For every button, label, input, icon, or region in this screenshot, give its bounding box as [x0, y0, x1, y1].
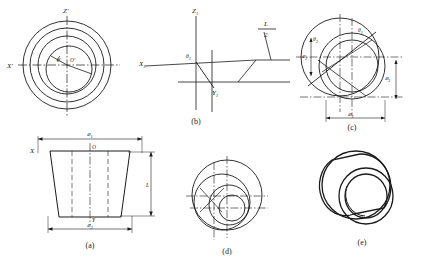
label-y1: Y1 — [212, 89, 218, 98]
label-dia2-a: ⌀2 — [87, 222, 93, 230]
panel-e: (e) — [319, 151, 393, 247]
dim-c-bottom-arrow-left — [326, 116, 330, 119]
label-L-numerator: L — [263, 20, 268, 28]
label-L-a: L — [145, 182, 149, 188]
label-theta2-c: θ2 — [313, 36, 319, 44]
dim-a-top-arrow-left — [38, 137, 43, 141]
panel-top-left: Z' X' θ' O' — [6, 7, 120, 116]
dim-a-right-arrow-top — [149, 152, 153, 157]
pictorial-bore-shadow — [346, 186, 365, 216]
label-x-prime: X' — [6, 62, 13, 70]
dim-a-top-arrow-right — [138, 137, 143, 141]
label-Y-a: Y — [92, 217, 96, 223]
dim-c-left-arrow-bottom — [309, 72, 312, 76]
label-theta1-b: θ1 — [186, 53, 191, 61]
dim-a-bottom-arrow-right — [128, 227, 133, 231]
label-dia3-c: ⌀3 — [385, 75, 391, 83]
label-z1: Z1 — [192, 7, 198, 16]
construction-left-line — [238, 60, 256, 82]
dim-c-bottom-arrow-right — [381, 116, 385, 119]
label-2-denominator: 2 — [264, 31, 268, 39]
panel-d: (d) — [186, 156, 268, 256]
label-dia1-c: ⌀1 — [348, 111, 353, 119]
caption-b: (b) — [191, 117, 201, 126]
caption-d: (d) — [222, 247, 232, 256]
drawing-sheet: Z' X' θ' O' Z1 X1 Y1 θ1 L 2 (b) — [0, 0, 425, 265]
dim-a-right-arrow-bottom — [149, 212, 153, 217]
label-dia1-a: ⌀1 — [87, 131, 92, 139]
dim-a-bottom-arrow-left — [48, 227, 53, 231]
label-o-prime: O' — [70, 57, 76, 63]
caption-c: (c) — [348, 123, 357, 132]
dim-c-right-arrow-top — [394, 60, 397, 64]
caption-a: (a) — [86, 241, 95, 250]
circle-d-mid — [194, 174, 250, 230]
figure-svg: Z' X' θ' O' Z1 X1 Y1 θ1 L 2 (b) — [0, 0, 425, 265]
label-O-a: O — [92, 144, 96, 150]
circle-inner-2 — [46, 46, 92, 92]
label-theta-prime: θ' — [57, 57, 62, 63]
panel-c: ⌀2 ⌀3 ⌀1 θ2 θ1 (c) — [296, 14, 404, 132]
label-dia2-c: ⌀2 — [302, 53, 308, 61]
axis-y1-line — [196, 62, 214, 88]
axis-x1-line — [145, 60, 256, 66]
label-X-a: X — [29, 147, 35, 155]
panel-b: Z1 X1 Y1 θ1 L 2 (b) — [138, 7, 290, 126]
pictorial-rim-outer — [339, 168, 393, 224]
label-x1: X1 — [138, 60, 145, 69]
caption-e: (e) — [358, 238, 367, 247]
ray-theta-2 — [67, 65, 92, 74]
label-z-prime: Z' — [63, 7, 69, 15]
chord-c-oblique-3 — [322, 40, 372, 72]
panel-a: ⌀1 ⌀2 L X O Y (a) — [29, 131, 155, 250]
circle-d-small — [209, 185, 249, 225]
chord-c-oblique-2 — [318, 60, 366, 96]
